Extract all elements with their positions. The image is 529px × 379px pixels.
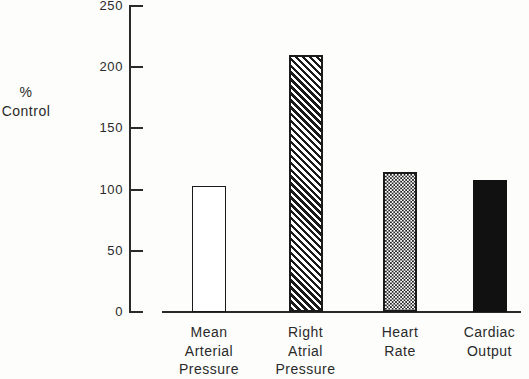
bar-chart: % Control 050100150200250MeanArterialPre… [0,0,529,379]
bar-mean-arterial-pressure [192,186,226,312]
y-axis-line [129,6,131,313]
y-tick-label-200: 200 [76,59,123,75]
y-tick-150 [129,127,143,129]
y-tick-250 [129,5,143,7]
x-category-label: Output [425,343,529,360]
y-tick-200 [129,66,143,68]
x-category-label: Cardiac [425,324,529,341]
y-tick-0 [129,311,143,313]
y-tick-label-100: 100 [76,182,123,198]
y-tick-100 [129,189,143,191]
y-tick-label-150: 150 [76,120,123,136]
y-axis-title: % Control [0,83,52,121]
y-tick-label-250: 250 [76,0,123,14]
y-axis-title-line1: % [0,83,52,102]
bar-right-atrial-pressure [289,55,323,312]
y-tick-50 [129,250,143,252]
x-category-label: Pressure [241,361,371,378]
y-tick-label-50: 50 [76,243,123,259]
bar-cardiac-output [473,180,507,312]
bar-heart-rate [383,172,417,312]
y-tick-label-0: 0 [76,304,123,320]
y-axis-title-line2: Control [0,102,52,121]
